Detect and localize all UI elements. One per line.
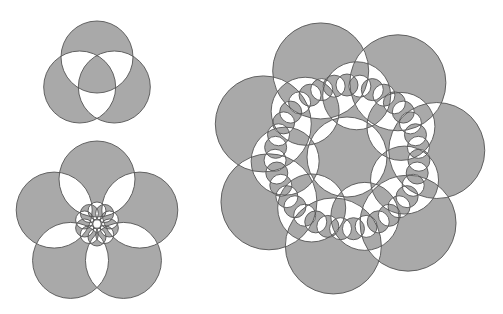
geometric-circles-canvas [0, 0, 503, 314]
